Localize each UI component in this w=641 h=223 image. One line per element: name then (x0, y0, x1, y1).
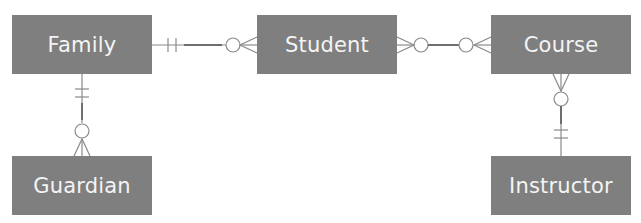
zero-circle-icon (226, 38, 240, 52)
relationship-family-student (152, 37, 257, 53)
entity-label: Student (285, 33, 369, 57)
entity-label: Instructor (509, 174, 613, 198)
zero-circle-icon (414, 38, 428, 52)
relationship-student-course (397, 37, 491, 53)
entity-label: Course (524, 33, 599, 57)
zero-circle-icon (459, 38, 473, 52)
relationship-family-guardian (74, 74, 90, 156)
entity-label: Guardian (33, 174, 131, 198)
entity-guardian[interactable]: Guardian (12, 156, 152, 215)
entity-label: Family (48, 33, 117, 57)
zero-circle-icon (554, 92, 568, 106)
entity-family[interactable]: Family (12, 15, 152, 74)
zero-circle-icon (75, 124, 89, 138)
entity-student[interactable]: Student (257, 15, 397, 74)
relationship-course-instructor (553, 74, 569, 156)
entity-instructor[interactable]: Instructor (491, 156, 631, 215)
entity-course[interactable]: Course (491, 15, 631, 74)
